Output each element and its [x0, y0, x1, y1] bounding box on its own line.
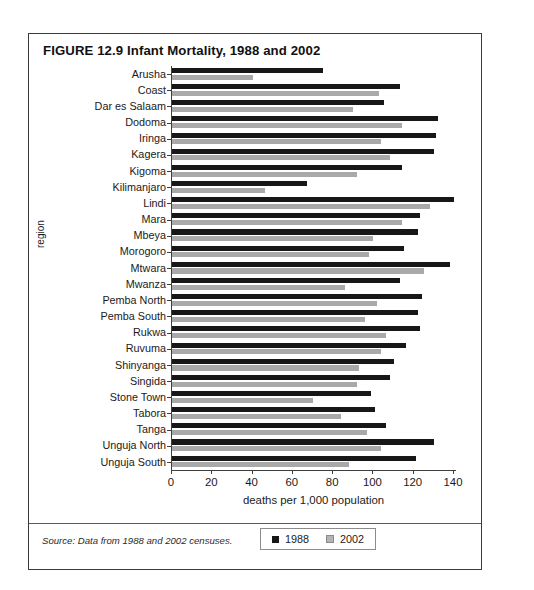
- x-tick: [292, 470, 293, 474]
- y-axis-label: Stone Town: [110, 392, 166, 403]
- legend-label: 2002: [340, 533, 364, 545]
- bar-2002: [172, 268, 424, 273]
- bar-row: [172, 179, 456, 195]
- bar-row: [172, 292, 456, 308]
- bar-2002: [172, 365, 359, 370]
- bar-1988: [172, 343, 406, 348]
- bar-row: [172, 147, 456, 163]
- bar-1988: [172, 423, 386, 428]
- x-tick: [171, 470, 172, 474]
- y-tick: [167, 268, 171, 269]
- bar-1988: [172, 278, 400, 283]
- x-axis-title: deaths per 1,000 population: [171, 494, 456, 506]
- x-tick: [413, 470, 414, 474]
- bar-1988: [172, 359, 394, 364]
- legend-item-2002: 2002: [326, 533, 364, 545]
- bar-2002: [172, 188, 265, 193]
- y-axis-label: Unguja South: [101, 457, 166, 468]
- bar-row: [172, 163, 456, 179]
- bar-1988: [172, 181, 307, 186]
- y-tick: [167, 106, 171, 107]
- legend-item-1988: 1988: [272, 533, 309, 545]
- y-tick: [167, 381, 171, 382]
- bar-2002: [172, 172, 357, 177]
- y-axis-label: Iringa: [139, 133, 166, 144]
- bar-1988: [172, 262, 450, 267]
- y-axis-label: Dar es Salaam: [95, 101, 166, 112]
- y-tick: [167, 220, 171, 221]
- bar-row: [172, 98, 456, 114]
- bar-2002: [172, 75, 253, 80]
- bar-row: [172, 260, 456, 276]
- bar-2002: [172, 220, 402, 225]
- bar-row: [172, 308, 456, 324]
- bar-2002: [172, 382, 357, 387]
- y-axis-label: Kigoma: [129, 166, 166, 177]
- bar-2002: [172, 91, 379, 96]
- x-tick: [332, 470, 333, 474]
- chart-legend: 19882002: [260, 528, 376, 550]
- bar-row: [172, 228, 456, 244]
- bar-1988: [172, 326, 420, 331]
- bar-2002: [172, 349, 381, 354]
- y-tick: [167, 413, 171, 414]
- bar-2002: [172, 107, 353, 112]
- x-tick-label: 140: [443, 476, 462, 488]
- y-axis-label: Shinyanga: [115, 360, 166, 371]
- y-tick: [167, 462, 171, 463]
- y-axis-labels: ArushaCoastDar es SalaamDodomaIringaKage…: [53, 66, 166, 470]
- y-tick: [167, 316, 171, 317]
- bar-1988: [172, 133, 436, 138]
- bar-2002: [172, 317, 365, 322]
- legend-label: 1988: [285, 533, 309, 545]
- bar-row: [172, 341, 456, 357]
- bar-1988: [172, 407, 375, 412]
- figure-caption: FIGURE 12.9 Infant Mortality, 1988 and 2…: [43, 43, 320, 58]
- bar-2002: [172, 301, 377, 306]
- y-axis-label: Pemba North: [102, 295, 166, 306]
- bar-1988: [172, 100, 384, 105]
- bar-2002: [172, 414, 341, 419]
- bar-row: [172, 357, 456, 373]
- legend-swatch-icon: [326, 535, 334, 543]
- legend-swatch-icon: [272, 536, 279, 543]
- y-axis-label: Mara: [141, 214, 166, 225]
- bar-1988: [172, 213, 420, 218]
- bar-row: [172, 405, 456, 421]
- y-tick: [167, 155, 171, 156]
- bar-row: [172, 454, 456, 470]
- y-axis-label: Arusha: [132, 69, 166, 80]
- bar-row: [172, 373, 456, 389]
- y-axis-label: Unguja North: [102, 440, 166, 451]
- y-tick: [167, 90, 171, 91]
- y-tick: [167, 171, 171, 172]
- bar-2002: [172, 204, 430, 209]
- bar-1988: [172, 246, 404, 251]
- bar-2002: [172, 446, 381, 451]
- y-axis-label: Morogoro: [120, 246, 166, 257]
- y-tick: [167, 284, 171, 285]
- x-tick-label: 20: [205, 476, 218, 488]
- bar-1988: [172, 68, 323, 73]
- bar-1988: [172, 165, 402, 170]
- bar-row: [172, 438, 456, 454]
- chart-plot-area: region ArushaCoastDar es SalaamDodomaIri…: [171, 66, 458, 470]
- y-tick: [167, 123, 171, 124]
- y-axis-label: Dodoma: [125, 117, 166, 128]
- bar-row: [172, 114, 456, 130]
- y-axis-label: Rukwa: [133, 327, 166, 338]
- x-tick-label: 80: [326, 476, 339, 488]
- bar-2002: [172, 398, 313, 403]
- bar-2002: [172, 139, 381, 144]
- y-tick: [167, 446, 171, 447]
- y-tick: [167, 74, 171, 75]
- y-tick: [167, 139, 171, 140]
- bar-2002: [172, 333, 386, 338]
- bar-1988: [172, 116, 438, 121]
- bar-row: [172, 276, 456, 292]
- y-axis-label: Tabora: [133, 408, 166, 419]
- x-tick: [252, 470, 253, 474]
- bar-1988: [172, 229, 418, 234]
- x-tick: [453, 470, 454, 474]
- x-tick-label: 0: [168, 476, 174, 488]
